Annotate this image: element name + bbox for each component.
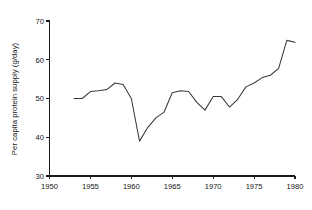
y-tick-label: 70: [36, 17, 44, 26]
y-tick-label-group: 3040506070: [36, 17, 44, 181]
x-tick-label: 1965: [164, 182, 181, 191]
y-tick-label: 40: [36, 133, 44, 142]
x-tick-label: 1970: [205, 182, 222, 191]
y-axis-title: Per capita protein supply (g/day): [10, 42, 19, 155]
x-axis: 1950195519601965197019751980: [41, 176, 303, 191]
data-series-line: [74, 40, 295, 141]
y-tick-label: 60: [36, 56, 44, 65]
plot-area: [74, 40, 295, 141]
chart-figure: 3040506070 1950195519601965197019751980 …: [0, 0, 312, 210]
x-tick-label-group: 1950195519601965197019751980: [41, 182, 303, 191]
x-tick-label: 1960: [123, 182, 140, 191]
x-tick-label: 1955: [82, 182, 99, 191]
y-axis: 3040506070: [36, 17, 50, 181]
x-tick-label: 1950: [41, 182, 58, 191]
line-chart: 3040506070 1950195519601965197019751980 …: [0, 0, 312, 210]
y-tick-label: 30: [36, 172, 44, 181]
y-tick-label: 50: [36, 94, 44, 103]
x-tick-label: 1980: [287, 182, 304, 191]
x-tick-label: 1975: [246, 182, 263, 191]
